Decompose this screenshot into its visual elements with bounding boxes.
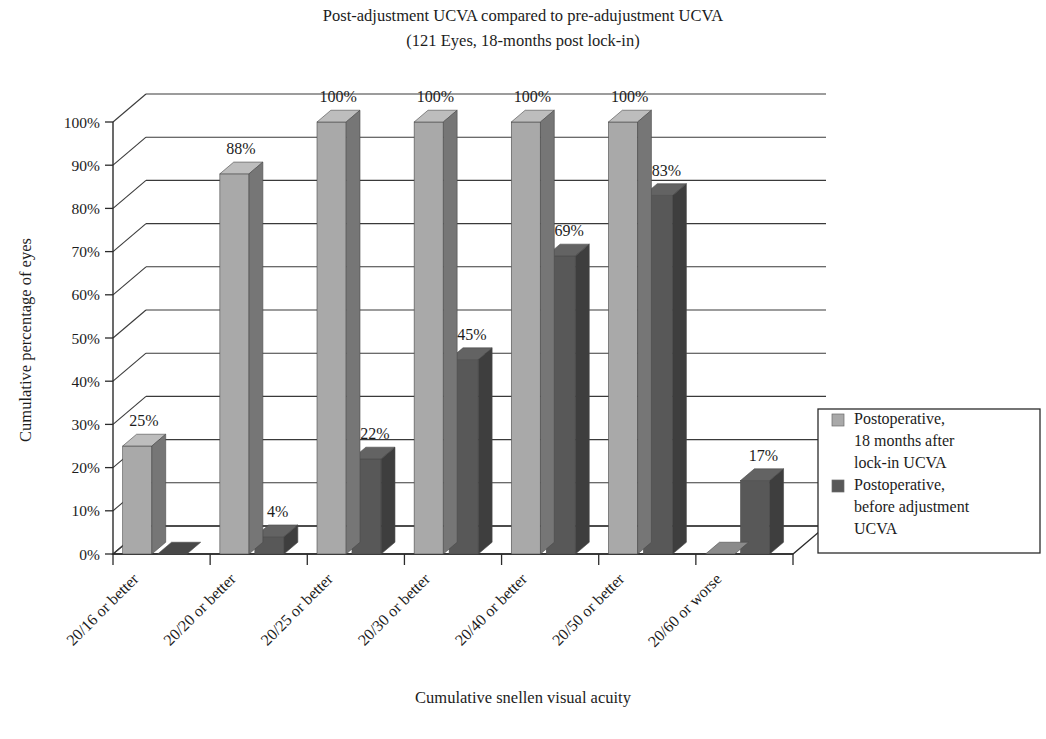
y-axis-tick-label: 90% [72, 157, 101, 174]
bar [414, 110, 457, 554]
y-axis-tick-label: 50% [72, 330, 101, 347]
legend-label: Postoperative, [854, 476, 945, 494]
bar-value-label: 22% [360, 425, 389, 442]
y-axis-tick-label: 80% [72, 200, 101, 217]
x-axis-category-label: 20/30 or better [354, 570, 433, 649]
legend-label: Postoperative, [854, 410, 945, 428]
y-axis-tick-label: 30% [72, 416, 101, 433]
bar-value-label: 100% [417, 88, 454, 105]
x-axis-category-label: 20/60 or worse [645, 570, 725, 650]
bar-value-label: 17% [749, 447, 778, 464]
bar [317, 110, 360, 554]
x-axis-category-label: 20/40 or better [452, 570, 531, 649]
legend-swatch [832, 480, 844, 492]
bar-value-label: 100% [514, 88, 551, 105]
bar-value-label: 4% [267, 503, 288, 520]
chart-subtitle: (121 Eyes, 18-months post lock-in) [406, 31, 639, 50]
chart-title: Post-adjustment UCVA compared to pre-adu… [323, 6, 723, 25]
y-axis-tick-label: 60% [72, 286, 101, 303]
legend-label: before adjustment [854, 498, 970, 516]
legend-label: lock-in UCVA [854, 454, 947, 471]
legend-label: 18 months after [854, 432, 955, 449]
bar-value-label: 100% [611, 88, 648, 105]
y-axis-tick-label: 0% [79, 546, 100, 563]
x-axis-category-label: 20/25 or better [257, 570, 336, 649]
bar [608, 110, 651, 554]
bar-value-label: 100% [320, 88, 357, 105]
bar-value-label: 25% [129, 412, 158, 429]
x-axis-title: Cumulative snellen visual acuity [415, 688, 632, 707]
bar-value-label: 69% [555, 222, 584, 239]
bar-value-label: 83% [652, 162, 681, 179]
y-axis-tick-label: 100% [64, 114, 100, 131]
bar [511, 110, 554, 554]
y-axis-tick-label: 40% [72, 373, 101, 390]
bar [741, 469, 784, 554]
bar-value-label: 88% [226, 140, 255, 157]
y-axis-tick-label: 20% [72, 459, 101, 476]
legend-swatch [832, 414, 844, 426]
y-axis-tick-label: 10% [72, 502, 101, 519]
chart-legend: Postoperative,18 months afterlock-in UCV… [818, 409, 1040, 553]
x-axis-category-label: 20/50 or better [549, 570, 628, 649]
chart-container: Post-adjustment UCVA compared to pre-adu… [0, 0, 1046, 739]
plot-area: 0%10%20%30%40%50%60%70%80%90%100%25%88%4… [63, 88, 826, 650]
bar-value-label: 45% [457, 326, 486, 343]
legend-label: UCVA [854, 520, 898, 537]
x-axis-category-label: 20/20 or better [160, 570, 239, 649]
bar [220, 162, 263, 554]
bar [123, 434, 166, 554]
y-axis-tick-label: 70% [72, 243, 101, 260]
bar-chart-svg: Post-adjustment UCVA compared to pre-adu… [0, 0, 1046, 739]
y-axis-title: Cumulative percentage of eyes [16, 238, 35, 442]
x-axis-category-label: 20/16 or better [63, 570, 142, 649]
